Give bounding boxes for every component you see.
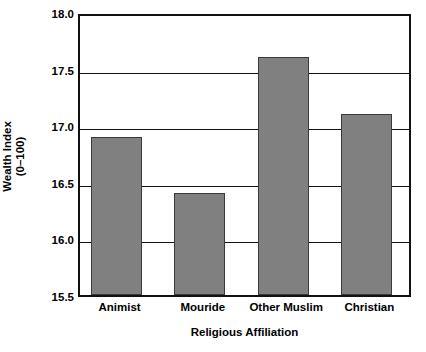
y-axis-title-line-1: Wealth Index — [1, 121, 14, 192]
y-axis-tick-label: 16.0 — [28, 234, 74, 246]
y-axis-tick-label: 17.5 — [28, 65, 74, 77]
x-axis-tick-labels: AnimistMourideOther MuslimChristian — [78, 300, 411, 318]
x-axis-tick-label: Christian — [328, 300, 411, 314]
x-axis-tick-label: Mouride — [161, 300, 244, 314]
y-axis-title: Wealth Index (0–100) — [0, 0, 26, 312]
x-axis-title: Religious Affiliation — [78, 325, 411, 339]
bar-chart-figure: Wealth Index (0–100) 18.017.517.016.516.… — [0, 0, 426, 352]
x-axis-tick-label: Other Muslim — [245, 300, 328, 314]
bar — [341, 114, 392, 295]
y-axis-tick-label: 16.5 — [28, 178, 74, 190]
y-axis-tick-label: 17.0 — [28, 121, 74, 133]
y-axis-tick-labels: 18.017.517.016.516.015.5 — [28, 0, 74, 352]
bar — [174, 193, 225, 295]
y-axis-tick-label: 15.5 — [28, 291, 74, 303]
bars-layer — [80, 16, 409, 295]
plot-area — [78, 14, 411, 297]
bar — [258, 57, 309, 295]
y-axis-tick-label: 18.0 — [28, 8, 74, 20]
bar — [91, 137, 142, 295]
x-axis-tick-label: Animist — [78, 300, 161, 314]
y-axis-title-line-2: (0–100) — [13, 121, 26, 192]
